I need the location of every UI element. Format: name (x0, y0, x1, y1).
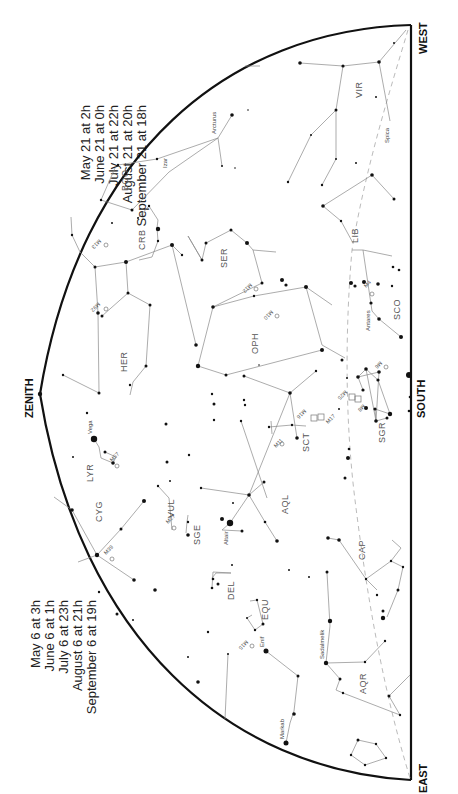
deep-sky-labels: M92 M13 M12 M10 M4 M6 M25 M8 M16 M17 M11… (90, 238, 384, 651)
time-table-bottom: May 6 at 3h June 6 at 1h July 6 at 23h A… (28, 600, 99, 714)
label-equ: EQU (260, 599, 270, 620)
time-line: September 6 at 19h (84, 600, 99, 714)
star-chart: May 21 at 2h June 21 at 0h July 21 at 22… (0, 0, 458, 794)
label-aql: AQL (280, 494, 290, 514)
label-m16: M16 (296, 408, 308, 420)
time-line: July 21 at 22h (106, 105, 121, 186)
label-arcturus: Arcturus (211, 112, 217, 134)
time-line: August 6 at 21h (70, 600, 85, 691)
label-markab: Markab (279, 718, 285, 739)
time-line: July 6 at 23h (56, 600, 71, 674)
label-sgr: SGR (377, 422, 387, 443)
time-table-top: May 21 at 2h June 21 at 0h July 21 at 22… (78, 105, 149, 226)
label-antares: Antares (365, 310, 371, 331)
label-her: HER (119, 351, 129, 372)
time-line: May 6 at 3h (28, 600, 43, 668)
label-vir: VIR (354, 81, 364, 98)
east-label: EAST (417, 763, 429, 793)
label-cyg: CYG (94, 501, 104, 522)
label-m25: M25 (337, 389, 349, 401)
label-crb: CRB (137, 229, 147, 250)
label-m39: M39 (102, 544, 114, 556)
label-m13: M13 (91, 238, 103, 250)
label-aqr: AQR (358, 673, 368, 694)
label-m10: M10 (263, 309, 275, 321)
label-spica: Spica (384, 127, 390, 143)
ecliptic-line (347, 30, 410, 778)
label-sco: SCO (392, 299, 402, 320)
south-label: SOUTH (415, 379, 427, 418)
zenith-marker (38, 392, 42, 396)
label-m15: M15 (238, 639, 250, 651)
label-cap: CAP (357, 540, 367, 560)
label-vega: Vega (87, 420, 93, 434)
label-ser: SER (219, 248, 229, 268)
label-m57: M57 (108, 451, 120, 463)
time-line: June 21 at 0h (92, 105, 107, 184)
label-m11: M11 (272, 437, 284, 449)
label-lib: LIB (350, 228, 360, 243)
label-sct: SCT (301, 432, 311, 452)
label-m92: M92 (90, 301, 102, 313)
label-del: DEL (226, 581, 236, 600)
label-izar: Izar (162, 158, 168, 168)
label-sge: SGE (192, 524, 202, 545)
west-label: WEST (417, 22, 429, 54)
label-boo: BOO (120, 169, 130, 191)
time-line: May 21 at 2h (78, 105, 93, 180)
label-m17: M17 (324, 413, 336, 425)
time-line: June 6 at 1h (42, 600, 57, 672)
zenith-label: ZENITH (23, 378, 35, 418)
label-m8: M8 (357, 403, 367, 413)
label-altair: Altair (223, 531, 229, 545)
label-lyr: LYR (85, 464, 95, 482)
label-oph: OPH (250, 333, 260, 354)
deep-sky-objects (104, 243, 388, 648)
label-m6: M6 (374, 360, 384, 370)
label-enif: Enif (259, 636, 265, 647)
label-sadalmelik: Sadalmelik (319, 629, 325, 659)
star-name-labels: Arcturus Izar Spica Antares Vega Altair … (87, 112, 390, 739)
